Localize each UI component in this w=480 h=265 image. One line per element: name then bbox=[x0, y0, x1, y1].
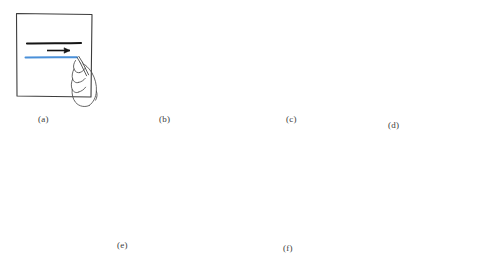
panel-caption-c: (c) bbox=[286, 114, 297, 124]
panel-a bbox=[17, 14, 98, 107]
panel-caption-b: (b) bbox=[159, 114, 170, 124]
black-stroke-a bbox=[27, 43, 81, 44]
panel-caption-f: (f) bbox=[283, 243, 293, 253]
figure-six-panel-drawing-sequence bbox=[0, 0, 480, 265]
panel-caption-d: (d) bbox=[388, 120, 399, 130]
panel-caption-a: (a) bbox=[38, 114, 49, 124]
paper-sheet-a bbox=[17, 14, 93, 98]
panel-caption-e: (e) bbox=[117, 240, 128, 250]
